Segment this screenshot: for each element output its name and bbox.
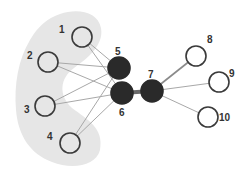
node-label-8: 8 — [207, 34, 213, 45]
node-10 — [198, 107, 218, 127]
node-6 — [111, 82, 133, 104]
node-label-10: 10 — [219, 112, 231, 123]
node-3 — [35, 96, 55, 116]
node-1 — [72, 27, 92, 47]
node-label-3: 3 — [24, 104, 30, 115]
node-label-7: 7 — [148, 69, 154, 80]
node-label-2: 2 — [27, 50, 33, 61]
node-2 — [38, 52, 58, 72]
node-8 — [186, 46, 206, 66]
node-4 — [60, 133, 80, 153]
node-9 — [209, 72, 229, 92]
node-label-4: 4 — [47, 131, 53, 142]
node-label-5: 5 — [115, 46, 121, 57]
node-5 — [108, 57, 130, 79]
node-7 — [141, 80, 163, 102]
network-diagram: 12345678910 — [0, 0, 246, 171]
node-label-6: 6 — [119, 107, 125, 118]
node-label-1: 1 — [59, 24, 65, 35]
node-label-9: 9 — [229, 68, 235, 79]
